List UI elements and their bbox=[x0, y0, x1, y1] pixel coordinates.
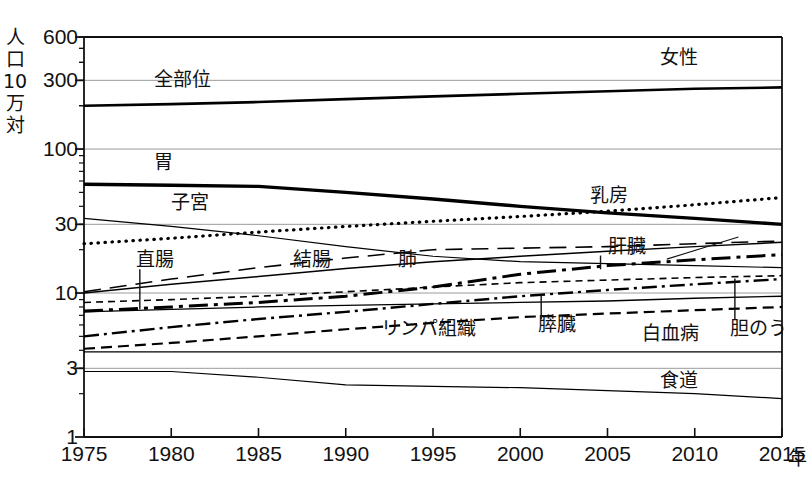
x-axis-tick-label-1990: 1990 bbox=[316, 443, 376, 465]
y-axis-tick-label-300: 300 bbox=[26, 69, 78, 90]
x-axis-tick-label-1980: 1980 bbox=[141, 443, 201, 465]
y-axis-tick-label-600: 600 bbox=[26, 26, 78, 47]
plot-svg bbox=[0, 0, 807, 480]
annotation-直腸: 直腸 bbox=[136, 249, 174, 269]
annotation-女性: 女性 bbox=[660, 47, 698, 67]
y-axis-title-char-0: 人 bbox=[2, 26, 28, 48]
annotation-白血病: 白血病 bbox=[642, 323, 699, 343]
x-axis-tick-label-2005: 2005 bbox=[578, 443, 638, 465]
annotation-胆のう: 胆のう bbox=[730, 318, 787, 338]
x-axis-unit-label: 年 bbox=[788, 443, 807, 470]
x-axis-tick-label-2000: 2000 bbox=[490, 443, 550, 465]
y-axis-tick-label-10: 10 bbox=[26, 282, 78, 303]
annotation-肺: 肺 bbox=[398, 249, 417, 269]
annotation-結腸: 結腸 bbox=[293, 249, 331, 269]
annotation-肝臓: 肝臓 bbox=[608, 236, 646, 256]
series-line-全部位 bbox=[84, 87, 782, 105]
annotation-子宮: 子宮 bbox=[171, 192, 209, 212]
y-axis-title-char-3: 万 bbox=[2, 92, 28, 114]
x-axis-tick-label-1975: 1975 bbox=[54, 443, 114, 465]
annotation-リンパ組織: リンパ組織 bbox=[381, 318, 476, 338]
series-line-結腸 bbox=[84, 241, 782, 292]
x-axis-tick-label-2010: 2010 bbox=[665, 443, 725, 465]
annotation-膵臓: 膵臓 bbox=[538, 314, 576, 334]
x-axis-tick-label-1995: 1995 bbox=[403, 443, 463, 465]
y-axis-tick-label-100: 100 bbox=[26, 138, 78, 159]
y-axis-title-char-4: 対 bbox=[2, 114, 28, 136]
chart-container: 人 口 10 万 対 60030010030103119751980198519… bbox=[0, 0, 807, 480]
y-axis-tick-label-30: 30 bbox=[26, 213, 78, 234]
y-axis-tick-label-3: 3 bbox=[26, 357, 78, 378]
annotation-乳房: 乳房 bbox=[590, 185, 628, 205]
annotation-全部位: 全部位 bbox=[154, 69, 211, 89]
y-axis-title-char-2: 10 bbox=[2, 70, 28, 92]
annotation-食道: 食道 bbox=[660, 370, 698, 390]
y-axis-title: 人 口 10 万 対 bbox=[2, 26, 28, 136]
x-axis-tick-label-1985: 1985 bbox=[229, 443, 289, 465]
y-axis-title-char-1: 口 bbox=[2, 48, 28, 70]
annotation-胃: 胃 bbox=[154, 152, 173, 172]
